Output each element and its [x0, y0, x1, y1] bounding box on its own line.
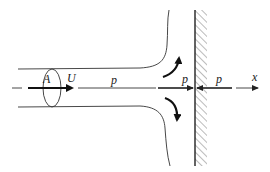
jet-impingement-diagram: A U p p p x — [0, 0, 270, 172]
jet-lower-boundary — [18, 106, 170, 166]
pressure-right-label: p — [215, 72, 222, 86]
x-axis-label: x — [251, 70, 258, 84]
pressure-jet-label: p — [110, 73, 117, 87]
jet-upper-boundary — [18, 10, 169, 69]
pressure-left-label: p — [181, 72, 188, 86]
area-label: A — [42, 72, 51, 86]
deflection-arrow-up — [163, 58, 179, 77]
velocity-label: U — [67, 71, 77, 85]
deflection-arrow-down — [165, 98, 177, 120]
